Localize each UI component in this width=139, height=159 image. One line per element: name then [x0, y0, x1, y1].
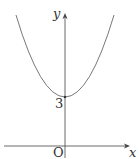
- y-intercept-point: [64, 96, 66, 98]
- x-axis-label: x: [129, 145, 137, 159]
- graph-canvas: y x O 3: [0, 0, 139, 159]
- origin-label: O: [53, 145, 64, 159]
- y-axis-label: y: [52, 6, 61, 21]
- y-intercept-label: 3: [55, 96, 63, 111]
